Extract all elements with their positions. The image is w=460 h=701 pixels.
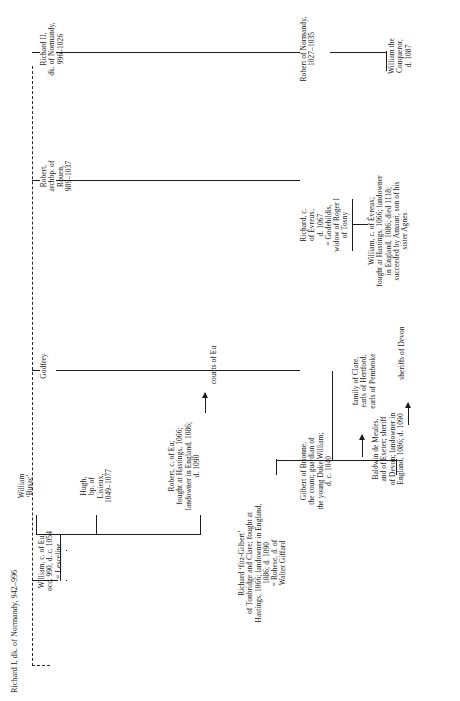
conn-william-eu-bar: [66, 550, 67, 551]
page-title: Richard I, dk. of Normandy, 942–996: [10, 513, 19, 693]
root-dashed-connector: [32, 66, 33, 666]
conn-to-hugh-lisieux: [96, 515, 97, 535]
arrow-to-counts-of-eu: [205, 393, 206, 413]
conn-to-william-busac: [36, 515, 37, 535]
root-dashed-stub: [32, 665, 50, 666]
node-william-count-of-evreux: William, c. of Évreux; fought at Hasting…: [368, 146, 409, 316]
node-gilbert-of-brionne: Gilbert of Brionne, the count; guardian …: [300, 411, 333, 531]
node-richard-fitz-gilbert: Richard ‘fitz-Gilbert’ of Tonbridge and …: [238, 473, 288, 653]
node-godfrey: Godfrey: [40, 331, 48, 401]
conn-william-eu-children-bracket: [36, 534, 201, 535]
conn-william-eu-bar-out: [60, 535, 61, 581]
conn-godfrey-to-gilbert: [56, 370, 300, 371]
genealogy-stage: Richard I, dk. of Normandy, 942–996 Godf…: [0, 0, 460, 701]
conn-robert-rouen-to-richard-evreux: [56, 180, 300, 181]
conn-to-robert-eu: [200, 515, 201, 535]
conn-richard-evreux-to-william: [352, 224, 368, 225]
conn-robert-rouen-to-root: [32, 180, 40, 181]
conn-gilbert-children-bar: [332, 371, 333, 461]
conn-richard-ii-to-robert: [56, 52, 300, 53]
conn-richard-evreux-bar: [352, 199, 353, 251]
conn-godfrey-to-root: [32, 370, 40, 371]
node-counts-of-eu: counts of Eu: [210, 329, 218, 401]
node-robert-count-of-eu: Robert, c. of Eu; fought at Hastings, 10…: [168, 406, 201, 526]
node-hugh-bishop-lisieux: Hugh, bp. of Lisieux, 1049–1077: [80, 459, 113, 513]
arrow-to-family-of-clare: [362, 435, 363, 457]
node-sheriffs-of-devon: sheriffs of Devon: [398, 305, 406, 401]
node-robert-archbishop-rouen: Robert, archbp. of Rouen, 989–1037: [40, 141, 73, 211]
node-richard-count-of-evreux: Richard, c. of Évreux, d. 1067 = Godehil…: [300, 179, 350, 271]
node-william-the-conqueror: William the Conqueror, d. 1087: [388, 19, 413, 93]
conn-robert-to-conqueror: [330, 52, 386, 53]
conn-gen2-a: [66, 580, 67, 581]
conn-to-baldwin-de-meules: [396, 459, 397, 475]
node-richard-ii: Richard II, dk. of Normandy, 996–1026: [40, 5, 65, 93]
conn-to-richard-fitz-gilbert: [276, 459, 277, 475]
genealogy-page: Richard I, dk. of Normandy, 942–996 Godf…: [0, 0, 460, 701]
arrow-to-sheriffs-of-devon: [408, 403, 409, 425]
node-baldwin-de-meules: Baldwin de Meules, and of Exeter; sherif…: [372, 385, 405, 513]
conn-richard-ii-to-root: [32, 52, 40, 53]
conn-william-eu-to-root: [32, 580, 58, 581]
node-william-busac: William ‘Busac’: [18, 459, 35, 513]
node-robert-of-normandy: Robert of Normandy, 1027–1035: [300, 0, 317, 101]
conn-conqueror-bar: [386, 51, 387, 71]
conn-gilbert-children-bracket: [276, 460, 396, 461]
